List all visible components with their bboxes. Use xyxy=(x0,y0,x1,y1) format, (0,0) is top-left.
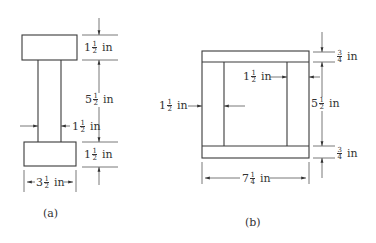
outer-box xyxy=(202,51,309,158)
dim-b-inner-height: 512 in xyxy=(311,97,340,111)
dim-a-web-height: 512 in xyxy=(85,93,114,107)
dim-b-inner-side: 112 in xyxy=(243,70,272,84)
dim-b-overall-width: 714 in xyxy=(242,172,271,186)
caption-a: (a) xyxy=(43,207,58,220)
dim-b-left-side: 112 in xyxy=(159,99,188,113)
bottom-flange xyxy=(24,142,76,166)
figure-a-shape xyxy=(22,35,77,166)
dim-a-bottom-flange: 112 in xyxy=(84,148,113,162)
caption-b: (b) xyxy=(245,216,261,229)
top-flange xyxy=(22,35,77,60)
dim-b-bottom-plank: 34 in xyxy=(336,147,358,161)
figure-b-shape xyxy=(202,51,309,158)
dim-a-flange-width: 312 in xyxy=(36,176,65,190)
dim-b-top-plank: 34 in xyxy=(336,50,358,64)
dim-a-top-flange: 112 in xyxy=(84,41,113,55)
dim-a-web-thickness: 112 in xyxy=(72,120,101,134)
